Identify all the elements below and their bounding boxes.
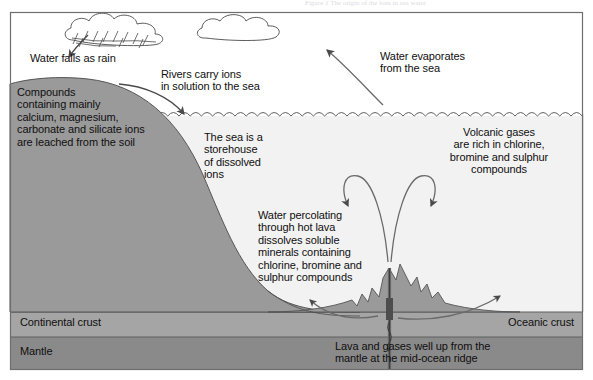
label-compounds-leached: Compounds containing mainly calcium, mag… — [17, 86, 193, 148]
label-continental-crust: Continental crust — [20, 316, 101, 328]
label-water-falls-as-rain: Water falls as rain — [30, 52, 116, 64]
label-oceanic-crust: Oceanic crust — [430, 316, 574, 328]
label-water-evaporates: Water evaporates from the sea — [380, 50, 465, 75]
label-water-percolating: Water percolating through hot lava disso… — [258, 209, 362, 283]
label-lava-gases-ridge: Lava and gases well up from the mantle a… — [335, 340, 490, 365]
label-sea-storehouse: The sea is a storehouse of dissolved ion… — [204, 131, 263, 181]
label-volcanic-gases: Volcanic gases are rich in chlorine, bro… — [423, 126, 575, 176]
figure-container: Figure 1 The origin of the ions in sea w… — [0, 0, 593, 380]
label-mantle: Mantle — [20, 345, 52, 357]
